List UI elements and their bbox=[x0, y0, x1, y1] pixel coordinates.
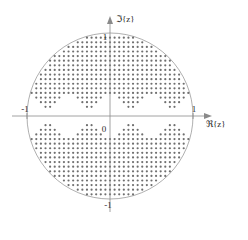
data-point bbox=[72, 147, 74, 149]
data-point bbox=[81, 184, 83, 186]
data-point bbox=[104, 92, 106, 94]
data-point bbox=[72, 60, 74, 62]
data-point bbox=[114, 55, 116, 57]
data-point bbox=[150, 143, 152, 145]
data-point bbox=[63, 60, 65, 62]
data-point bbox=[141, 96, 143, 98]
data-point bbox=[132, 83, 134, 85]
data-point bbox=[67, 147, 69, 149]
data-point bbox=[132, 55, 134, 57]
data-point bbox=[86, 166, 88, 168]
data-point bbox=[49, 161, 51, 163]
data-point bbox=[63, 69, 65, 71]
data-point bbox=[155, 166, 157, 168]
data-point bbox=[72, 92, 74, 94]
data-point bbox=[58, 83, 60, 85]
data-point bbox=[58, 175, 60, 177]
data-point bbox=[150, 60, 152, 62]
data-point bbox=[178, 78, 180, 80]
data-point bbox=[95, 175, 97, 177]
data-point bbox=[90, 133, 92, 135]
data-point bbox=[155, 73, 157, 75]
data-point bbox=[173, 69, 175, 71]
data-point bbox=[150, 50, 152, 52]
data-point bbox=[90, 69, 92, 71]
data-point bbox=[155, 156, 157, 158]
data-point bbox=[40, 96, 42, 98]
data-point bbox=[100, 143, 102, 145]
data-point bbox=[49, 64, 51, 66]
data-point bbox=[146, 92, 148, 94]
data-point bbox=[155, 55, 157, 57]
data-point bbox=[63, 55, 65, 57]
data-point bbox=[127, 175, 129, 177]
data-point bbox=[118, 69, 120, 71]
data-point bbox=[54, 101, 56, 103]
data-point bbox=[118, 166, 120, 168]
data-point bbox=[137, 138, 139, 140]
data-point bbox=[67, 69, 69, 71]
data-point bbox=[49, 106, 51, 108]
data-point bbox=[132, 156, 134, 158]
data-point bbox=[86, 73, 88, 75]
data-point bbox=[86, 60, 88, 62]
data-point bbox=[127, 92, 129, 94]
data-point bbox=[137, 143, 139, 145]
data-point bbox=[137, 55, 139, 57]
data-point bbox=[86, 106, 88, 108]
data-point bbox=[132, 152, 134, 154]
data-point bbox=[160, 166, 162, 168]
data-point bbox=[81, 175, 83, 177]
data-point bbox=[169, 161, 171, 163]
data-point bbox=[146, 161, 148, 163]
data-point bbox=[49, 124, 51, 126]
data-point bbox=[164, 138, 166, 140]
data-point bbox=[114, 175, 116, 177]
data-point bbox=[54, 152, 56, 154]
data-point bbox=[100, 92, 102, 94]
data-point bbox=[160, 69, 162, 71]
data-point bbox=[164, 170, 166, 172]
data-point bbox=[54, 69, 56, 71]
data-point bbox=[35, 143, 37, 145]
data-point bbox=[90, 138, 92, 140]
data-point bbox=[132, 37, 134, 39]
data-point bbox=[150, 55, 152, 57]
data-point bbox=[183, 96, 185, 98]
data-point bbox=[141, 55, 143, 57]
data-point bbox=[100, 170, 102, 172]
data-point bbox=[132, 143, 134, 145]
data-point bbox=[95, 60, 97, 62]
data-point bbox=[146, 46, 148, 48]
data-point bbox=[150, 78, 152, 80]
data-point bbox=[86, 179, 88, 181]
data-point bbox=[95, 166, 97, 168]
data-point bbox=[146, 87, 148, 89]
data-point bbox=[58, 152, 60, 154]
data-point bbox=[95, 147, 97, 149]
data-point bbox=[67, 161, 69, 163]
data-point bbox=[155, 152, 157, 154]
data-point bbox=[100, 175, 102, 177]
data-point bbox=[114, 64, 116, 66]
data-point bbox=[58, 64, 60, 66]
data-point bbox=[150, 64, 152, 66]
data-point bbox=[169, 73, 171, 75]
data-point bbox=[104, 87, 106, 89]
data-point bbox=[86, 129, 88, 131]
data-point bbox=[127, 60, 129, 62]
data-point bbox=[54, 83, 56, 85]
data-point bbox=[81, 73, 83, 75]
data-point bbox=[164, 175, 166, 177]
data-point bbox=[160, 55, 162, 57]
data-point bbox=[40, 78, 42, 80]
data-point bbox=[127, 78, 129, 80]
data-point bbox=[118, 143, 120, 145]
data-point bbox=[118, 83, 120, 85]
data-point bbox=[127, 124, 129, 126]
data-point bbox=[114, 138, 116, 140]
data-point bbox=[169, 69, 171, 71]
data-point bbox=[44, 161, 46, 163]
data-point bbox=[44, 147, 46, 149]
data-point bbox=[146, 147, 148, 149]
